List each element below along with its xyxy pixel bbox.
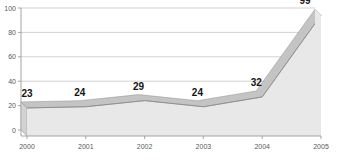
- y-axis-tick-label: 20: [8, 102, 16, 109]
- x-axis-tick-label: 2002: [137, 143, 153, 150]
- x-axis-tick-label: 2005: [313, 143, 329, 150]
- area-chart: 0204060801002000200120022003200420052324…: [0, 0, 337, 164]
- data-label: 23: [21, 88, 33, 99]
- data-label: 29: [133, 81, 145, 92]
- y-axis-tick-label: 100: [4, 5, 16, 12]
- x-axis-tick-label: 2001: [78, 143, 94, 150]
- y-axis-tick-label: 0: [12, 127, 16, 134]
- y-axis-tick-label: 60: [8, 53, 16, 60]
- x-axis-tick-label: 2003: [196, 143, 212, 150]
- x-axis-tick-label: 2004: [254, 143, 270, 150]
- y-axis-tick-label: 80: [8, 29, 16, 36]
- data-label: 24: [192, 87, 204, 98]
- x-axis-tick-label: 2000: [19, 143, 35, 150]
- data-label: 99: [299, 0, 311, 6]
- area-end-cap: [315, 9, 321, 136]
- x-axis: 200020012002200320042005: [19, 136, 329, 150]
- y-axis: 020406080100: [4, 5, 21, 137]
- data-label: 24: [74, 87, 86, 98]
- y-axis-tick-label: 40: [8, 78, 16, 85]
- chart-container: 0204060801002000200120022003200420052324…: [0, 0, 337, 164]
- data-label: 32: [251, 77, 263, 88]
